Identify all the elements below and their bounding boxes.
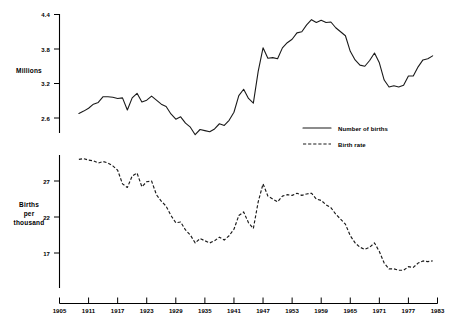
rate-y-axis-title-line-1: Births	[19, 201, 39, 208]
x-tick-label-1971: 1971	[372, 308, 386, 314]
x-tick-label-1953: 1953	[285, 308, 299, 314]
births-and-birth-rate-figure: 4.4 3.8 3.2 2.6 Millions Number of birth…	[0, 0, 452, 334]
rate-y-axis-title-line-3: thousand	[14, 219, 45, 226]
x-tick-label-1935: 1935	[198, 308, 212, 314]
x-tick-label-1911: 1911	[82, 308, 96, 314]
x-tick-label-1905: 1905	[53, 308, 67, 314]
x-tick-label-1929: 1929	[169, 308, 183, 314]
legend-label-birth-rate: Birth rate	[338, 142, 366, 148]
legend-label-number-of-births: Number of births	[338, 126, 388, 132]
x-tick-label-1941: 1941	[227, 308, 241, 314]
x-tick-label-1947: 1947	[256, 308, 270, 314]
chart-background	[0, 0, 452, 334]
x-tick-label-1917: 1917	[111, 308, 125, 314]
births-y-axis-title: Millions	[16, 67, 42, 74]
x-tick-label-1977: 1977	[402, 308, 416, 314]
rate-ytick-label-27: 27	[43, 179, 50, 185]
births-ytick-label-4.4: 4.4	[41, 12, 50, 18]
births-ytick-label-3.2: 3.2	[41, 81, 50, 87]
births-ytick-label-2.6: 2.6	[41, 116, 50, 122]
x-tick-label-1983: 1983	[431, 308, 445, 314]
x-tick-label-1923: 1923	[140, 308, 154, 314]
x-tick-label-1965: 1965	[343, 308, 357, 314]
rate-ytick-label-17: 17	[43, 251, 50, 257]
rate-y-axis-title-line-2: per	[24, 210, 35, 218]
x-tick-label-1959: 1959	[314, 308, 328, 314]
births-ytick-label-3.8: 3.8	[41, 47, 50, 53]
